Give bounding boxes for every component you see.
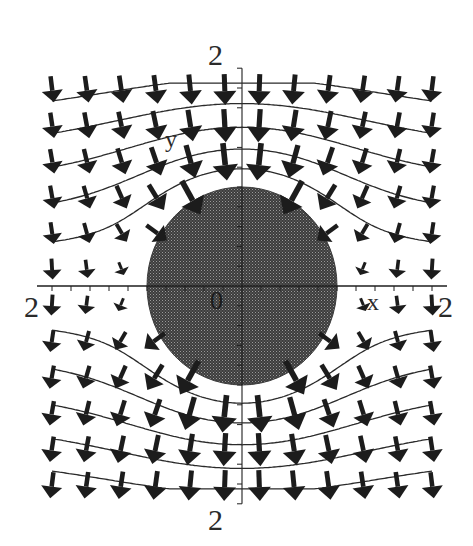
arrow-shaft [257, 395, 259, 417]
field-arrow [42, 149, 62, 173]
field-arrow [248, 433, 272, 466]
arrow-head-icon [213, 91, 236, 105]
field-arrow [353, 472, 375, 499]
arrow-head-icon [317, 225, 332, 242]
field-arrow [145, 75, 167, 104]
arrow-head-icon [422, 197, 442, 209]
field-arrow [179, 74, 202, 104]
field-arrow [422, 186, 442, 209]
field-arrow [387, 112, 408, 138]
field-arrow [114, 224, 130, 242]
arrow-head-icon [421, 161, 441, 174]
arrow-shaft [153, 111, 156, 127]
field-arrow [388, 436, 409, 462]
field-arrow [282, 74, 305, 104]
y-max-tick-label: 2 [208, 40, 223, 70]
arrow-head-icon [282, 90, 305, 105]
field-arrow [113, 298, 127, 311]
arrow-shaft [362, 262, 365, 269]
arrow-shaft [291, 181, 302, 201]
arrow-shaft [182, 181, 193, 201]
field-arrow [387, 472, 408, 499]
arrow-shaft [432, 113, 434, 127]
field-arrow [353, 400, 374, 426]
arrow-head-icon [387, 89, 408, 103]
field-arrow [77, 331, 95, 351]
field-arrow [110, 472, 132, 499]
arrow-shaft [154, 75, 156, 91]
field-arrow [42, 76, 63, 102]
arrow-head-icon [43, 197, 63, 209]
arrow-head-icon [389, 305, 407, 314]
arrow-shaft [324, 399, 329, 415]
arrow-shaft [292, 470, 294, 487]
arrow-shaft [155, 435, 158, 451]
arrow-shaft [358, 332, 364, 342]
y-min-tick-label: 2 [208, 505, 223, 535]
field-arrow [422, 401, 442, 425]
x-axis-label: x [367, 290, 379, 314]
arrow-head-icon [76, 449, 97, 463]
arrow-shaft [293, 145, 298, 163]
field-arrow [43, 259, 62, 280]
arrow-shaft [224, 109, 225, 127]
arrow-shaft [430, 437, 432, 451]
field-arrow [179, 470, 202, 500]
field-arrow [144, 333, 164, 350]
arrow-shaft [361, 472, 363, 487]
arrow-head-icon [423, 377, 443, 389]
field-arrow [213, 109, 237, 142]
field-arrow [110, 400, 131, 426]
field-arrow [387, 76, 408, 103]
arrow-shaft [431, 330, 433, 342]
arrow-head-icon [324, 333, 339, 350]
arrow-shaft [362, 112, 365, 127]
arrow-head-icon [423, 341, 442, 352]
arrow-shaft [225, 470, 226, 487]
field-arrow [111, 112, 132, 139]
arrow-shaft [52, 366, 54, 379]
arrow-shaft [326, 225, 337, 233]
field-arrow [354, 224, 370, 242]
plot-area [0, 0, 473, 546]
arrow-head-icon [43, 306, 62, 316]
arrow-shaft [116, 224, 122, 234]
arrow-head-icon [213, 487, 236, 501]
field-arrow [43, 186, 63, 209]
field-arrow [421, 149, 441, 173]
field-arrow [318, 435, 340, 464]
arrow-shaft [84, 223, 87, 234]
arrow-shaft [328, 111, 331, 127]
arrow-shaft [52, 437, 54, 451]
arrow-shaft [327, 471, 329, 487]
arrow-head-icon [78, 269, 96, 278]
arrow-head-icon [43, 270, 62, 280]
arrow-shaft [190, 470, 192, 487]
field-arrow [42, 330, 61, 352]
arrow-head-icon [76, 485, 97, 499]
field-arrow [114, 262, 128, 275]
arrow-shaft [397, 186, 401, 198]
arrow-shaft [430, 401, 432, 414]
arrow-shaft [52, 472, 54, 486]
arrow-shaft [84, 186, 88, 198]
field-arrow [213, 433, 237, 466]
arrow-head-icon [41, 449, 62, 462]
field-arrow [110, 436, 131, 463]
field-arrow [317, 225, 337, 242]
arrow-shaft [50, 186, 52, 199]
arrow-head-icon [387, 485, 408, 499]
arrow-head-icon [388, 269, 406, 278]
arrow-head-icon [42, 161, 62, 174]
arrow-shaft [86, 260, 87, 270]
arrow-shaft [397, 76, 399, 91]
arrow-head-icon [422, 233, 441, 244]
arrow-shaft [190, 434, 193, 451]
arrow-shaft [51, 222, 53, 234]
field-arrow [77, 112, 98, 138]
arrow-head-icon [283, 486, 306, 501]
arrow-shaft [155, 471, 157, 487]
arrow-head-icon [247, 416, 272, 433]
field-arrow [76, 366, 95, 389]
arrow-shaft [189, 74, 191, 91]
